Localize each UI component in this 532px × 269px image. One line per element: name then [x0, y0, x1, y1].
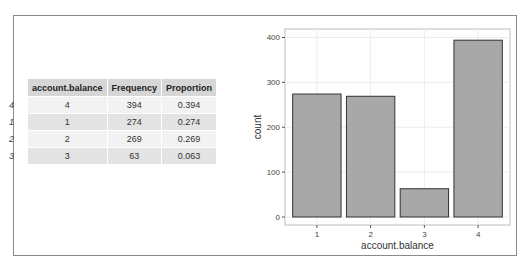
frequency-table: account.balance Frequency Proportion 4 4… [6, 78, 217, 165]
row-name: 1 [7, 114, 27, 130]
cell-account-balance: 1 [28, 114, 107, 130]
table-header-row: account.balance Frequency Proportion [7, 79, 216, 96]
bar-2 [346, 96, 394, 217]
bar-3 [400, 189, 448, 217]
table-row: 4 4 394 0.394 [7, 97, 216, 113]
header-frequency: Frequency [108, 79, 162, 96]
row-name: 2 [7, 131, 27, 147]
bar-4 [454, 40, 502, 217]
table-row: 2 2 269 0.269 [7, 131, 216, 147]
cell-account-balance: 2 [28, 131, 107, 147]
header-account-balance: account.balance [28, 79, 107, 96]
cell-frequency: 269 [108, 131, 162, 147]
bar-chart: 01002003004001234account.balancecount [245, 15, 517, 256]
cell-proportion: 0.274 [162, 114, 216, 130]
x-tick-label: 4 [476, 230, 481, 239]
x-tick-label: 3 [422, 230, 427, 239]
cell-proportion: 0.394 [162, 97, 216, 113]
y-tick-label: 100 [267, 168, 281, 177]
x-tick-label: 2 [368, 230, 373, 239]
y-tick-label: 400 [267, 33, 281, 42]
cell-frequency: 394 [108, 97, 162, 113]
cell-proportion: 0.063 [162, 148, 216, 164]
cell-account-balance: 4 [28, 97, 107, 113]
cell-frequency: 63 [108, 148, 162, 164]
x-axis-title: account.balance [361, 240, 434, 251]
table-row: 3 3 63 0.063 [7, 148, 216, 164]
y-tick-label: 0 [276, 213, 281, 222]
cell-proportion: 0.269 [162, 131, 216, 147]
y-axis-title: count [252, 115, 263, 140]
table-row: 1 1 274 0.274 [7, 114, 216, 130]
bar-chart-svg: 01002003004001234account.balancecount [245, 15, 517, 256]
cell-frequency: 274 [108, 114, 162, 130]
bar-1 [293, 94, 341, 217]
y-tick-label: 300 [267, 78, 281, 87]
row-name: 4 [7, 97, 27, 113]
cell-account-balance: 3 [28, 148, 107, 164]
header-proportion: Proportion [162, 79, 216, 96]
row-name: 3 [7, 148, 27, 164]
x-tick-label: 1 [315, 230, 320, 239]
y-tick-label: 200 [267, 123, 281, 132]
header-rowname [7, 79, 27, 96]
